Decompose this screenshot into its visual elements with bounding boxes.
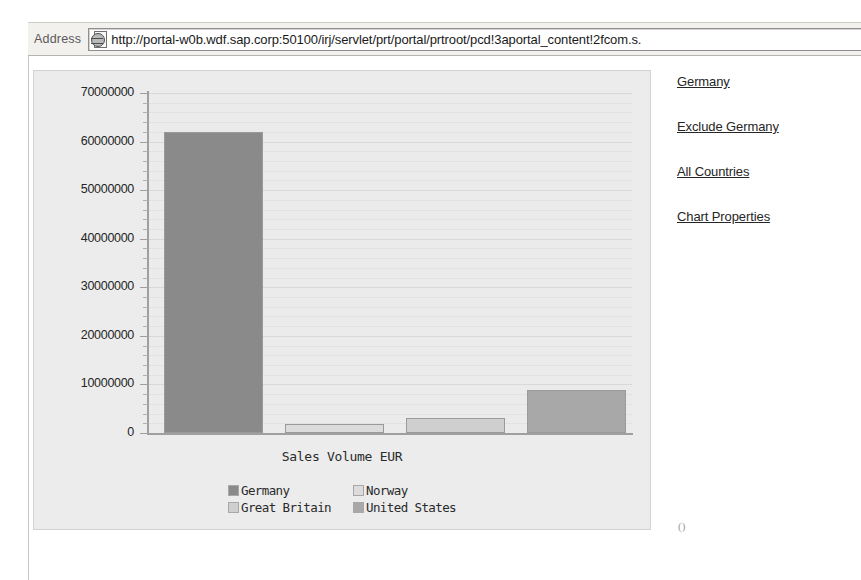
legend-swatch-germany [228,485,239,496]
y-tick-minor [143,229,148,230]
y-tick-minor [143,171,148,172]
legend-label-germany: Germany [241,483,289,498]
y-tick-minor [143,161,148,162]
y-tick-minor [143,316,148,317]
legend-item-united-states: United States [353,500,456,515]
y-tick-minor [143,258,148,259]
link-exclude-germany[interactable]: Exclude Germany [677,119,857,134]
chart-gridline-minor [148,112,632,113]
legend-item-germany: Germany [228,483,331,498]
y-tick-major [140,190,148,191]
y-axis-tick-label: 10000000 [34,376,134,390]
y-tick-minor [143,404,148,405]
y-tick-minor [143,248,148,249]
y-tick-minor [143,122,148,123]
sales-volume-bar-chart: Sales Volume EUR Germany Norway Great Br… [33,70,651,530]
y-tick-major [140,433,148,434]
y-axis-tick-label: 60000000 [34,134,134,148]
y-axis-tick-label: 40000000 [34,231,134,245]
y-axis-tick-label: 30000000 [34,279,134,293]
chart-bar-germany [164,132,264,433]
y-tick-minor [143,394,148,395]
link-germany[interactable]: Germany [677,74,857,89]
chart-y-axis [147,91,149,435]
legend-item-norway: Norway [353,483,456,498]
y-tick-minor [143,307,148,308]
y-tick-minor [143,268,148,269]
chart-plot-area [148,93,632,433]
y-tick-minor [143,365,148,366]
y-tick-minor [143,210,148,211]
y-tick-minor [143,326,148,327]
y-tick-minor [143,423,148,424]
y-tick-minor [143,151,148,152]
y-axis-tick-label: 50000000 [34,182,134,196]
y-axis-tick-label: 20000000 [34,328,134,342]
address-label: Address [28,32,88,46]
legend-swatch-norway [353,485,364,496]
y-tick-minor [143,346,148,347]
y-axis-tick-label: 0 [34,425,134,439]
y-tick-minor [143,132,148,133]
y-tick-minor [143,112,148,113]
y-tick-minor [143,414,148,415]
stray-artifact: () [678,520,685,532]
y-tick-minor [143,103,148,104]
y-tick-major [140,384,148,385]
chart-x-axis [147,433,633,435]
legend-item-great-britain: Great Britain [228,500,331,515]
chart-x-axis-title: Sales Volume EUR [34,449,650,464]
legend-label-united-states: United States [366,500,456,515]
browser-address-bar: Address http://portal-w0b.wdf.sap.corp:5… [28,22,861,56]
y-tick-minor [143,180,148,181]
y-tick-major [140,239,148,240]
page-content: Sales Volume EUR Germany Norway Great Br… [28,56,861,580]
y-tick-major [140,93,148,94]
chart-bar-norway [285,424,385,433]
link-chart-properties[interactable]: Chart Properties [677,209,857,224]
y-tick-major [140,287,148,288]
y-tick-minor [143,200,148,201]
y-tick-minor [143,375,148,376]
address-input[interactable]: http://portal-w0b.wdf.sap.corp:50100/irj… [88,28,861,51]
chart-bar-great-britain [406,418,506,433]
y-tick-minor [143,355,148,356]
y-tick-minor [143,219,148,220]
y-tick-minor [143,297,148,298]
legend-swatch-united-states [353,502,364,513]
address-url-text: http://portal-w0b.wdf.sap.corp:50100/irj… [111,32,641,47]
legend-label-norway: Norway [366,483,408,498]
y-axis-tick-label: 70000000 [34,85,134,99]
chart-gridline-minor [148,122,632,123]
chart-gridline-minor [148,103,632,104]
legend-swatch-great-britain [228,502,239,513]
page-globe-icon [91,31,107,47]
y-tick-minor [143,278,148,279]
y-tick-major [140,336,148,337]
legend-label-great-britain: Great Britain [241,500,331,515]
chart-gridline-major [148,93,632,94]
y-tick-major [140,142,148,143]
portal-link-list: Germany Exclude Germany All Countries Ch… [677,74,857,254]
chart-legend: Germany Norway Great Britain United Stat… [34,483,650,515]
chart-bar-united-states [527,390,627,433]
link-all-countries[interactable]: All Countries [677,164,857,179]
